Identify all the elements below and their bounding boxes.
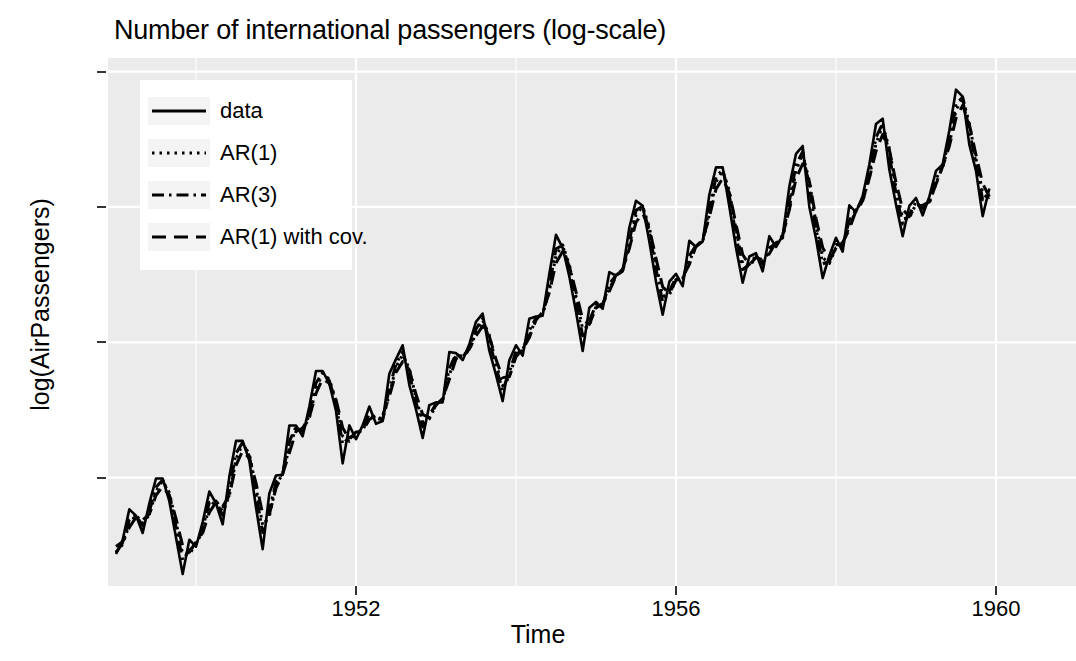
legend-item-label: data xyxy=(220,98,263,124)
x-tick-label: 1960 xyxy=(936,596,1056,622)
x-tick-label: 1956 xyxy=(616,596,736,622)
page-title: Number of international passengers (log-… xyxy=(114,14,666,47)
legend-item-ar-1-with-cov[interactable]: AR(1) with cov. xyxy=(148,216,344,258)
x-axis-title: Time xyxy=(0,620,1076,649)
y-tick-mark xyxy=(97,71,106,73)
legend-item-data[interactable]: data xyxy=(148,90,344,132)
y-tick-mark xyxy=(97,206,106,208)
chart-legend: dataAR(1)AR(3)AR(1) with cov. xyxy=(140,80,352,270)
legend-item-ar-3[interactable]: AR(3) xyxy=(148,174,344,216)
legend-key-solid-icon xyxy=(148,97,210,125)
legend-key-dotted-icon xyxy=(148,139,210,167)
x-tick-label: 1952 xyxy=(296,596,416,622)
x-tick-mark xyxy=(675,586,677,595)
legend-key-dashed-icon xyxy=(148,223,210,251)
x-tick-mark xyxy=(995,586,997,595)
legend-item-ar-1[interactable]: AR(1) xyxy=(148,132,344,174)
legend-key-dotdash-icon xyxy=(148,181,210,209)
y-tick-mark xyxy=(97,477,106,479)
chart-figure: Number of international passengers (log-… xyxy=(0,0,1076,661)
x-tick-mark xyxy=(355,586,357,595)
legend-item-label: AR(1) xyxy=(220,140,277,166)
legend-item-label: AR(3) xyxy=(220,182,277,208)
y-axis-title: log(AirPassengers) xyxy=(26,170,55,440)
y-tick-mark xyxy=(97,341,106,343)
legend-item-label: AR(1) with cov. xyxy=(220,224,368,250)
